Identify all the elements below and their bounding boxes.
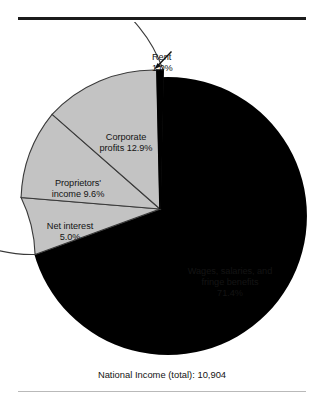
- bottom-divider-rule: [18, 391, 306, 392]
- label-proprietors-income: Proprietors'income 9.6%: [32, 178, 124, 200]
- label-corporate-profits: Corporateprofits 12.9%: [78, 132, 174, 154]
- label-rent-value: 1.0%: [152, 63, 173, 73]
- pie-chart-figure: Rent1.0% Corporateprofits 12.9% Propriet…: [0, 0, 324, 406]
- pie-chart-area: Rent1.0% Corporateprofits 12.9% Propriet…: [0, 22, 324, 362]
- top-divider-rule: [18, 17, 306, 20]
- label-net-interest: Net interest5.0%: [26, 221, 114, 243]
- figure-caption: National Income (total): 10,904: [0, 369, 324, 380]
- label-wages-salaries-fringe-benefits: Wages, salaries, andfringe benefits71.4%: [172, 266, 288, 300]
- label-rent-name: Rent: [152, 52, 171, 62]
- label-rent: Rent1.0%: [152, 52, 212, 74]
